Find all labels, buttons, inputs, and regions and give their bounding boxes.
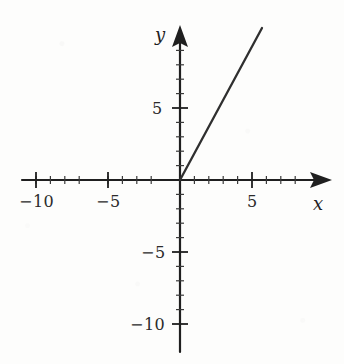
y-tick-label-pos5: 5 bbox=[152, 99, 163, 118]
y-tick-label-neg5: −5 bbox=[141, 243, 166, 262]
data-series-ray bbox=[180, 28, 262, 180]
x-tick-label-neg5: −5 bbox=[96, 192, 121, 211]
graph-figure: −10 −5 5 5 −5 −10 x y bbox=[0, 0, 344, 364]
x-tick-label-pos5: 5 bbox=[247, 192, 258, 211]
y-axis-label: y bbox=[155, 24, 165, 45]
x-axis-label: x bbox=[313, 193, 323, 214]
cartesian-plot bbox=[0, 0, 344, 364]
y-tick-label-neg10: −10 bbox=[130, 315, 165, 334]
x-tick-label-neg10: −10 bbox=[19, 192, 54, 211]
